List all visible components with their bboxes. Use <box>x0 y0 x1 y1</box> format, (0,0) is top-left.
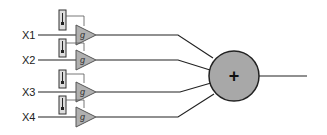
input-label: X1 <box>22 29 35 41</box>
neuron-diagram: X1 g X2 g X3 g X4 <box>0 0 327 135</box>
summing-node: + <box>209 51 259 101</box>
gain-amplifier-icon <box>76 82 96 102</box>
plus-icon: + <box>229 66 240 86</box>
gain-label: g <box>80 55 85 65</box>
input-label: X3 <box>22 86 35 98</box>
input-label: X4 <box>22 111 35 123</box>
input-branch-x3: X3 g <box>22 70 211 102</box>
input-branch-x4: X4 g <box>22 94 214 127</box>
gain-amplifier-icon <box>76 25 96 45</box>
gain-amplifier-icon <box>76 50 96 70</box>
input-branch-x2: X2 g <box>22 39 210 70</box>
gain-label: g <box>80 30 85 40</box>
gain-label: g <box>80 87 85 97</box>
input-branch-x1: X1 g <box>22 10 213 58</box>
gain-label: g <box>80 112 85 122</box>
gain-amplifier-icon <box>76 107 96 127</box>
input-label: X2 <box>22 54 35 66</box>
